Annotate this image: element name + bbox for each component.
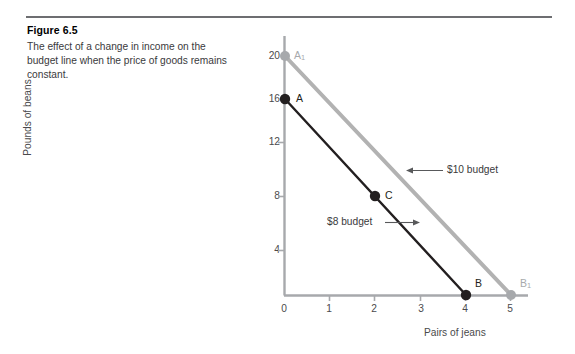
data-point-a1 [280,51,290,61]
data-point-b [461,290,471,300]
annotation-budget-10: $10 budget [447,164,498,175]
budget-line-10 [285,56,511,295]
data-point-c [370,191,380,201]
point-label-c: C [385,189,393,201]
data-point-b1 [506,290,516,300]
point-label-b1: B1 [520,277,531,289]
data-point-a [280,94,290,104]
budget-line-chart: Pounds of beans Pairs of jeans 20 16 12 … [0,0,575,354]
annotation-budget-8: $8 budget [327,216,372,227]
point-label-b: B [475,277,482,289]
point-label-a1: A1 [294,49,305,61]
plot-svg [0,0,575,354]
budget-10-arrow [406,168,443,174]
point-label-a: A [296,92,303,104]
figure-page: Figure 6.5 The effect of a change in inc… [0,0,575,354]
